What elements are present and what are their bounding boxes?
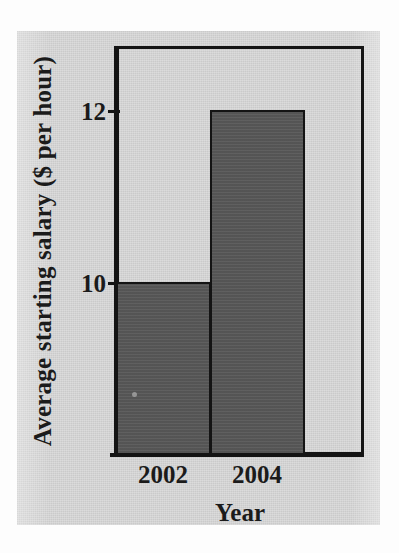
bar-2004	[210, 110, 305, 456]
y-axis-title: Average starting salary ($ per hour)	[26, 46, 60, 456]
x-axis-line	[110, 453, 364, 457]
bar-texture	[118, 284, 209, 454]
bar-2002	[116, 282, 211, 456]
x-tick-label-2004: 2004	[202, 462, 312, 487]
bar-texture	[212, 112, 303, 454]
scanned-page: Average starting salary ($ per hour) 12 …	[0, 0, 399, 553]
scan-artifact-speck	[132, 392, 137, 397]
y-tick-label-10: 10	[60, 271, 106, 296]
x-axis-title: Year	[116, 500, 364, 525]
y-axis-line	[114, 46, 118, 457]
y-tick-label-12: 12	[60, 99, 106, 124]
